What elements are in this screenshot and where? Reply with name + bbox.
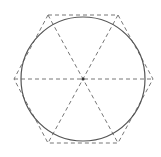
inscribed-circle-hexagon-diagram <box>0 0 161 157</box>
center-point <box>81 77 84 80</box>
